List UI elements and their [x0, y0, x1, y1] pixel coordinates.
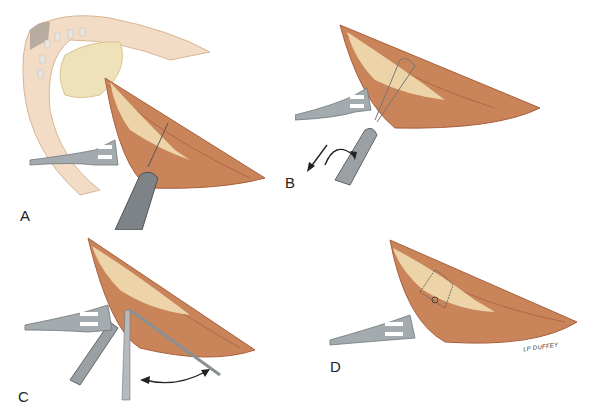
panel-b: B [295, 0, 590, 230]
panel-label-a: A [20, 207, 30, 224]
panel-a-illustration [0, 0, 295, 230]
panel-label-b: B [285, 174, 295, 191]
panel-a: A [0, 0, 295, 230]
panel-d: D LP DUFFEY [295, 230, 590, 405]
panel-c: C [0, 230, 295, 405]
panel-c-illustration [0, 230, 295, 405]
panel-d-illustration [295, 230, 590, 405]
panel-label-d: D [330, 358, 341, 375]
panel-b-illustration [295, 0, 590, 230]
panel-label-c: C [18, 388, 29, 405]
